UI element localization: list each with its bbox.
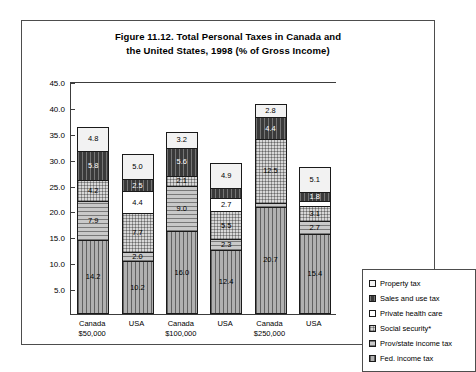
legend-item[interactable]: Social security* [369, 321, 475, 336]
legend-swatch-icon [369, 355, 376, 362]
y-tick-label: 15.0 [49, 234, 65, 243]
bar-segment-value: 4.4 [132, 199, 142, 207]
bar-segment[interactable]: 5.8 [77, 151, 109, 181]
x-axis-label-country: Canada [256, 319, 282, 328]
legend-item[interactable]: Prov/state income tax [369, 336, 475, 351]
legend-swatch-icon [369, 325, 376, 332]
bar-segment-value: 3.2 [177, 136, 187, 144]
bar-segment[interactable]: 16.0 [166, 231, 198, 314]
bar-segment[interactable]: 4.8 [77, 127, 109, 152]
plot-area: 5.010.015.020.025.030.035.040.045.0 14.2… [70, 82, 336, 315]
bar-segment-value: 5.6 [177, 158, 187, 166]
bar-group[interactable]: 15.42.73.11.85.1 [299, 168, 331, 314]
bar-segment[interactable]: 3.2 [166, 132, 198, 149]
x-axis-label-country: USA [217, 319, 232, 328]
bar-segment-value: 2.8 [265, 107, 275, 115]
bar-segment[interactable]: 10.2 [122, 261, 154, 314]
y-tick-label: 40.0 [49, 104, 65, 113]
y-tick-label: 30.0 [49, 156, 65, 165]
bar-group[interactable]: 20.712.54.42.8 [255, 105, 287, 314]
bar-segment-value: 15.4 [308, 270, 323, 278]
bar-segment-value: 10.2 [130, 284, 145, 292]
bar-segment[interactable]: 2.3 [210, 239, 242, 251]
bar-segment-value: 9.0 [177, 205, 187, 213]
x-axis-label-income: $250,000 [243, 329, 297, 339]
legend-swatch-icon [369, 310, 376, 317]
x-axis-label-income: $50,000 [65, 329, 119, 339]
legend-label: Prov/state income tax [380, 339, 452, 348]
bar-group[interactable]: 10.22.07.74.42.55.0 [122, 155, 154, 314]
bar-segment[interactable]: 12.4 [210, 250, 242, 314]
bar-segment[interactable]: 2.1 [166, 176, 198, 187]
bar-segment[interactable]: 4.4 [255, 117, 287, 140]
bar-segment[interactable]: 2.5 [122, 179, 154, 192]
x-axis-label-country: Canada [79, 319, 105, 328]
y-tick-label: 45.0 [49, 79, 65, 88]
bar-segment-value: 7.9 [88, 217, 98, 225]
bar-segment[interactable] [210, 188, 242, 200]
bar-segment-value: 5.0 [132, 163, 142, 171]
y-tick-label: 25.0 [49, 182, 65, 191]
bar-segment[interactable]: 20.7 [255, 207, 287, 314]
bars-layer: 14.27.94.25.84.810.22.07.74.42.55.016.09… [71, 83, 336, 314]
bar-segment[interactable]: 2.0 [122, 252, 154, 262]
legend-label: Property tax [380, 279, 420, 288]
bar-segment[interactable]: 7.9 [77, 201, 109, 242]
bar-segment[interactable]: 4.9 [210, 163, 242, 188]
legend-item[interactable]: Fed. income tax [369, 351, 475, 366]
bar-segment[interactable]: 2.7 [210, 198, 242, 212]
bar-segment[interactable]: 5.1 [299, 167, 331, 193]
bar-segment-value: 4.4 [265, 125, 275, 133]
bar-group[interactable]: 14.27.94.25.84.8 [77, 128, 109, 314]
legend-swatch-icon [369, 280, 376, 287]
bar-group[interactable]: 12.42.35.52.74.9 [210, 164, 242, 314]
chart-title-line-1: Figure 11.12. Total Personal Taxes in Ca… [22, 30, 434, 44]
bar-segment[interactable]: 14.2 [77, 240, 109, 314]
bar-segment-value: 12.4 [219, 278, 234, 286]
bar-segment[interactable]: 15.4 [299, 234, 331, 314]
bar-segment[interactable]: 5.6 [166, 148, 198, 177]
bar-segment[interactable]: 2.8 [255, 104, 287, 118]
bar-segment[interactable] [299, 201, 331, 208]
x-axis-label-country: Canada [168, 319, 194, 328]
bar-segment-value: 3.1 [310, 210, 320, 218]
bar-segment[interactable]: 7.7 [122, 213, 154, 253]
bar-segment-value: 7.7 [132, 229, 142, 237]
chart-title-line-2: the United States, 1998 (% of Gross Inco… [22, 44, 434, 58]
bar-segment-value: 2.0 [132, 253, 142, 261]
x-axis-label: USA [287, 319, 341, 329]
bar-group[interactable]: 16.09.02.15.63.2 [166, 133, 198, 314]
bar-segment-value: 20.7 [263, 256, 278, 264]
legend-label: Social security* [380, 324, 431, 333]
bar-segment-value: 4.9 [221, 172, 231, 180]
chart-title: Figure 11.12. Total Personal Taxes in Ca… [22, 30, 434, 58]
y-tick-label: 10.0 [49, 260, 65, 269]
y-tick-label: 20.0 [49, 208, 65, 217]
legend-item[interactable]: Private health care [369, 306, 475, 321]
bar-segment-value: 5.1 [310, 176, 320, 184]
bar-segment-value: 1.8 [310, 193, 320, 201]
bar-segment[interactable]: 3.1 [299, 206, 331, 222]
x-axis-labels: Canada$50,000USACanada$100,000USACanada$… [70, 319, 336, 345]
bar-segment[interactable]: 12.5 [255, 139, 287, 204]
bar-segment-value: 5.8 [88, 162, 98, 170]
bar-segment[interactable]: 5.5 [210, 211, 242, 239]
bar-segment[interactable]: 9.0 [166, 186, 198, 233]
bar-segment-value: 16.0 [175, 269, 190, 277]
bar-segment-value: 2.1 [177, 177, 187, 185]
bar-segment[interactable]: 4.2 [77, 180, 109, 202]
legend-item[interactable]: Sales and use tax [369, 291, 475, 306]
bar-segment[interactable]: 4.4 [122, 191, 154, 214]
bar-segment[interactable]: 2.7 [299, 221, 331, 235]
bar-segment[interactable]: 5.0 [122, 154, 154, 180]
bar-segment-value: 2.3 [221, 241, 231, 249]
y-tick-label: 5.0 [54, 286, 65, 295]
legend-item[interactable]: Property tax [369, 276, 475, 291]
legend-label: Fed. income tax [380, 354, 433, 363]
bar-segment-value: 2.7 [221, 201, 231, 209]
legend-label: Private health care [380, 309, 443, 318]
bar-segment[interactable]: 1.8 [299, 192, 331, 201]
y-tick-label: 35.0 [49, 130, 65, 139]
bar-segment-value: 2.7 [310, 224, 320, 232]
chart-legend: Property taxSales and use taxPrivate hea… [362, 269, 476, 372]
